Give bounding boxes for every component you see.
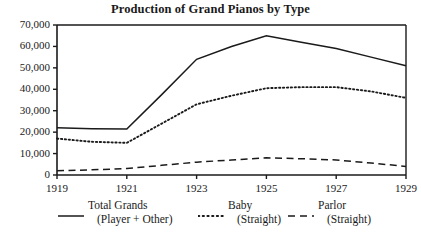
legend-label-line1: Total Grands — [88, 198, 172, 212]
axes-group — [53, 25, 406, 179]
series-line-2 — [57, 158, 406, 171]
chart-figure: Production of Grand Pianos by Type 010,0… — [0, 0, 421, 241]
x-tick-label: 1927 — [311, 183, 361, 194]
legend-line-sample-solid — [58, 204, 84, 207]
legend-label-line2: (Straight) — [228, 212, 281, 226]
x-tick-label: 1919 — [32, 183, 82, 194]
x-tick-label: 1923 — [172, 183, 222, 194]
legend-label-line1: Parlor — [318, 198, 371, 212]
legend-label: Baby(Straight) — [228, 198, 281, 226]
series-group — [57, 36, 406, 171]
series-line-1 — [57, 87, 406, 143]
chart-legend: Total Grands(Player + Other)Baby(Straigh… — [0, 198, 421, 241]
x-tick-label: 1929 — [381, 183, 421, 194]
legend-label-line1: Baby — [228, 198, 281, 212]
legend-line-sample-dotted — [198, 204, 224, 207]
x-tick-label: 1925 — [241, 183, 291, 194]
legend-label-line2: (Player + Other) — [88, 212, 172, 226]
legend-label: Parlor(Straight) — [318, 198, 371, 226]
legend-line-sample-dashed — [288, 204, 314, 207]
x-tick-label: 1921 — [102, 183, 152, 194]
legend-label-line2: (Straight) — [318, 212, 371, 226]
legend-label: Total Grands(Player + Other) — [88, 198, 172, 226]
series-line-0 — [57, 36, 406, 129]
